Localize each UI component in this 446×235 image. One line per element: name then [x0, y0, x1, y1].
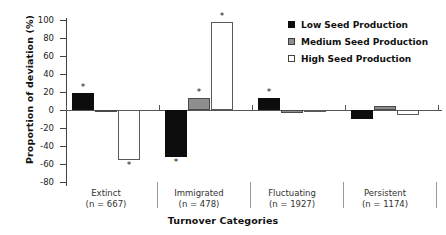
- y-tick-label: 60: [26, 52, 54, 60]
- bar: [397, 110, 419, 115]
- y-tick: [60, 128, 66, 129]
- category-label: Persistent(n = 1174): [325, 188, 445, 210]
- legend-item-medium: Medium Seed Production: [288, 34, 428, 49]
- legend-label-low: Low Seed Production: [301, 20, 408, 30]
- bar: [374, 106, 396, 110]
- significance-marker: *: [193, 89, 205, 96]
- x-tick: [438, 105, 439, 110]
- bar-chart-figure: Proportion of deviation (%) 100806040200…: [0, 0, 446, 235]
- bar: [211, 22, 233, 110]
- y-tick: [60, 182, 66, 183]
- category-count: (n = 1927): [269, 199, 315, 209]
- y-tick-label: -40: [26, 142, 54, 150]
- category-count: (n = 1174): [362, 199, 408, 209]
- legend-label-high: High Seed Production: [301, 54, 411, 64]
- bar: [72, 93, 94, 110]
- bar: [188, 98, 210, 110]
- x-tick: [345, 105, 346, 110]
- bar: [351, 110, 373, 119]
- bar: [95, 110, 117, 112]
- y-tick: [60, 74, 66, 75]
- category-count: (n = 478): [179, 199, 220, 209]
- y-tick: [60, 20, 66, 21]
- significance-marker: *: [216, 13, 228, 20]
- x-tick: [159, 105, 160, 110]
- y-tick: [60, 110, 66, 111]
- bar: [165, 110, 187, 157]
- chart-legend: Low Seed Production Medium Seed Producti…: [288, 17, 428, 68]
- significance-marker: *: [123, 162, 135, 169]
- x-tick: [66, 105, 67, 110]
- y-tick-label: -20: [26, 124, 54, 132]
- category-name: Immigrated: [174, 188, 224, 198]
- legend-label-medium: Medium Seed Production: [301, 37, 428, 47]
- category-name: Fluctuating: [268, 188, 316, 198]
- x-tick: [252, 105, 253, 110]
- y-tick: [60, 146, 66, 147]
- y-tick: [60, 164, 66, 165]
- x-axis-title: Turnover Categories: [0, 215, 446, 226]
- category-name: Extinct: [91, 188, 121, 198]
- y-axis-line: [66, 18, 67, 186]
- y-tick-label: -60: [26, 160, 54, 168]
- bar: [281, 110, 303, 113]
- legend-swatch-low-icon: [288, 21, 295, 28]
- significance-marker: *: [170, 159, 182, 166]
- y-tick-label: 0: [26, 106, 54, 114]
- y-tick: [60, 38, 66, 39]
- legend-swatch-medium-icon: [288, 38, 295, 45]
- y-tick-label: 100: [26, 16, 54, 24]
- significance-marker: *: [77, 84, 89, 91]
- legend-swatch-high-icon: [288, 55, 295, 62]
- legend-item-low: Low Seed Production: [288, 17, 428, 32]
- bar: [118, 110, 140, 160]
- y-tick-label: 20: [26, 88, 54, 96]
- category-count: (n = 667): [86, 199, 127, 209]
- significance-marker: *: [263, 89, 275, 96]
- y-tick-label: -80: [26, 178, 54, 186]
- category-name: Persistent: [364, 188, 406, 198]
- y-tick: [60, 92, 66, 93]
- bar: [258, 98, 280, 110]
- y-tick-label: 80: [26, 34, 54, 42]
- y-tick-label: 40: [26, 70, 54, 78]
- bar: [304, 110, 326, 112]
- y-tick: [60, 56, 66, 57]
- legend-item-high: High Seed Production: [288, 51, 428, 66]
